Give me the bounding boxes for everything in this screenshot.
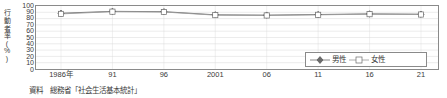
x-tick-label: 91 <box>108 71 116 79</box>
y-axis-title-char: ( <box>6 40 8 48</box>
legend-item-female: 女性 <box>349 55 385 65</box>
legend-label-male: 男性 <box>332 56 346 64</box>
legend-label-female: 女性 <box>371 56 385 64</box>
x-tick-label: 1986年 <box>49 71 73 79</box>
data-point-female <box>161 9 166 14</box>
data-point-female <box>264 13 269 18</box>
data-point-female <box>418 12 423 17</box>
y-axis-title-char: 率 <box>4 32 11 40</box>
data-point-female <box>316 12 321 17</box>
open-square-icon <box>349 55 369 65</box>
data-point-female <box>110 9 115 14</box>
y-axis-ticks: 1009080706050403020100 <box>12 0 34 75</box>
y-axis-title-char: 動 <box>4 17 11 25</box>
y-axis-title-char: ) <box>6 55 8 63</box>
legend-item-male: 男性 <box>310 55 346 65</box>
chart-legend: 男性 女性 <box>305 52 427 67</box>
chart-container: 行 動 者 率 ( % ) 1009080706050403020100 198… <box>0 0 447 98</box>
x-tick-label: 06 <box>263 71 271 79</box>
x-tick-label: 11 <box>314 71 322 79</box>
data-point-female <box>213 13 218 18</box>
x-tick-label: 21 <box>417 71 425 79</box>
data-point-female <box>367 12 372 17</box>
data-point-female <box>58 11 63 16</box>
y-axis-title-char: 行 <box>4 9 11 17</box>
x-tick-label: 2001 <box>207 71 224 79</box>
x-tick-label: 16 <box>365 71 373 79</box>
y-axis-title-char: % <box>4 47 10 55</box>
x-tick-label: 96 <box>160 71 168 79</box>
x-axis-ticks: 1986年9196200106111621 <box>0 71 447 83</box>
source-note: 資料 総務省「社会生活基本統計」 <box>29 86 141 95</box>
filled-diamond-icon <box>310 55 330 65</box>
